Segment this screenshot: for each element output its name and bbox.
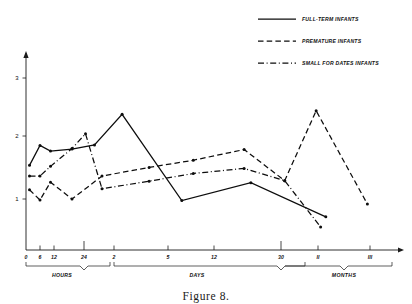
legend-label-full-term: FULL-TERM INFANTS (302, 16, 359, 22)
data-point (71, 198, 74, 201)
data-point (283, 179, 286, 182)
data-point (324, 215, 327, 218)
data-point (84, 132, 87, 135)
series-line-1 (30, 111, 368, 204)
x-tick-label-month-2: II (317, 254, 320, 260)
bracket-months (285, 262, 392, 270)
bracket-hours (26, 262, 110, 270)
data-point (315, 109, 318, 112)
y-tick-label-1: 1 (15, 196, 19, 202)
x-axis-arrow (398, 247, 404, 252)
data-point (93, 143, 96, 146)
data-point (192, 172, 195, 175)
series-line-0 (30, 114, 326, 217)
data-point (39, 199, 42, 202)
data-point (39, 144, 42, 147)
data-point (121, 113, 124, 116)
x-tick-label-2d: 2 (112, 254, 116, 260)
x-tick-label-24: 24 (80, 254, 87, 260)
x-tick-label-12h: 12 (51, 254, 57, 260)
legend-label-small-for-dates: SMALL FOR DATES INFANTS (302, 60, 379, 66)
data-point (243, 148, 246, 151)
group-label-hours: HOURS (52, 272, 72, 278)
y-axis-ticks: 1 2 3 (15, 75, 26, 202)
data-point (28, 175, 31, 178)
data-point (49, 181, 52, 184)
data-point (28, 164, 31, 167)
y-tick-label-3: 3 (15, 75, 19, 81)
figure-page: 1 2 3 0 6 12 24 2 5 12 30 II III (0, 0, 412, 304)
data-point (180, 199, 183, 202)
series-layer (28, 109, 369, 228)
data-point (28, 188, 31, 191)
x-axis-group-brackets: HOURS DAYS MONTHS (26, 262, 392, 278)
bracket-days (114, 262, 305, 270)
data-point (243, 167, 246, 170)
data-point (49, 165, 52, 168)
data-point (39, 175, 42, 178)
figure-caption: Figure 8. (0, 290, 412, 302)
data-point (71, 147, 74, 150)
chart-legend: FULL-TERM INFANTS PREMATURE INFANTS SMAL… (258, 16, 379, 66)
data-point (366, 203, 369, 206)
y-axis-arrow (23, 51, 28, 58)
data-point (148, 180, 151, 183)
x-tick-label-5d: 5 (167, 254, 170, 260)
x-tick-label-0: 0 (25, 254, 28, 260)
data-point (319, 226, 322, 229)
x-tick-label-12d: 12 (211, 254, 217, 260)
chart-axes (23, 51, 404, 253)
data-point (101, 187, 104, 190)
group-label-months: MONTHS (332, 272, 357, 278)
y-tick-label-2: 2 (15, 133, 19, 139)
data-point (101, 175, 104, 178)
x-tick-label-month-3: III (368, 254, 373, 260)
data-point (249, 181, 252, 184)
group-label-days: DAYS (189, 272, 204, 278)
x-tick-label-30d: 30 (278, 254, 284, 260)
legend-label-premature: PREMATURE INFANTS (302, 38, 362, 44)
line-chart: 1 2 3 0 6 12 24 2 5 12 30 II III (0, 0, 412, 304)
data-point (49, 150, 52, 153)
data-point (148, 166, 151, 169)
data-point (192, 159, 195, 162)
x-tick-label-6: 6 (39, 254, 42, 260)
